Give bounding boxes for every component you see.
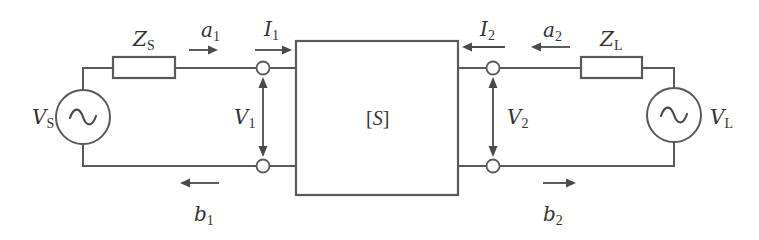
source-top-wire xyxy=(83,68,113,90)
source-circuit xyxy=(56,57,257,166)
port2-voltage-label: V2 xyxy=(507,105,528,131)
load-bottom-wire xyxy=(499,142,674,166)
arrow-left-icon xyxy=(531,43,570,52)
ac-source-icon xyxy=(647,88,701,142)
source-impedance-label: ZS xyxy=(132,27,155,53)
reflected-wave-b2-label: b2 xyxy=(543,202,563,228)
ac-source-icon xyxy=(56,90,110,144)
arrow-right-icon xyxy=(255,46,292,55)
reflected-wave-b1-label: b1 xyxy=(194,202,214,228)
load-impedance-resistor xyxy=(581,57,642,78)
port2-top-terminal xyxy=(487,62,500,75)
two-port-network-diagram: VS ZS a1 I1 b1 V1 [S] xyxy=(0,0,759,240)
s-matrix-label: [S] xyxy=(366,107,389,129)
port1-top-terminal xyxy=(257,62,270,75)
load-top-wire xyxy=(642,68,674,88)
arrow-left-icon xyxy=(462,43,505,52)
incident-wave-a2-label: a2 xyxy=(543,18,562,44)
port1-bottom-terminal xyxy=(257,160,270,173)
port1-voltage-label: V1 xyxy=(234,105,255,131)
load-voltage-label: VL xyxy=(710,105,733,131)
source-voltage-label: VS xyxy=(32,105,54,131)
double-arrow-icon xyxy=(489,77,498,157)
arrow-right-icon xyxy=(543,179,576,188)
current-i2-label: I2 xyxy=(479,17,495,43)
port2-bottom-terminal xyxy=(487,160,500,173)
double-arrow-icon xyxy=(259,77,268,157)
load-circuit xyxy=(499,57,701,166)
arrow-left-icon xyxy=(180,179,219,188)
source-impedance-resistor xyxy=(113,57,175,78)
source-bottom-wire xyxy=(83,144,257,166)
arrow-right-icon xyxy=(189,46,218,55)
load-impedance-label: ZL xyxy=(599,27,622,53)
incident-wave-a1-label: a1 xyxy=(201,18,220,44)
current-i1-label: I1 xyxy=(263,17,279,43)
